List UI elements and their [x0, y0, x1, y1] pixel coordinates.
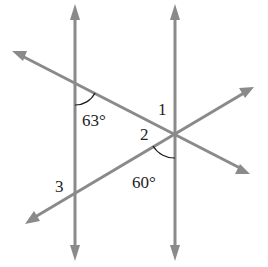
arrowhead-up-icon [170, 4, 180, 20]
transversal-ascending [25, 87, 254, 224]
angle-label-63: 63° [82, 111, 106, 130]
angle-label-60: 60° [132, 173, 156, 192]
vertical-line-left [70, 4, 80, 261]
arrowhead-down-icon [70, 245, 80, 261]
arrowhead-left-icon [12, 51, 27, 61]
angle-label-3: 3 [55, 177, 64, 196]
arrowhead-up-icon [70, 4, 80, 20]
transversal-descending [12, 51, 250, 174]
arrowhead-down-icon [170, 245, 180, 261]
angle-label-2: 2 [140, 125, 149, 144]
geometry-diagram: 63° 60° 1 2 3 [0, 0, 268, 267]
angle-arc-60 [153, 146, 175, 158]
angle-label-1: 1 [158, 100, 167, 119]
arrowhead-left-icon [25, 211, 40, 224]
angle-arc-63 [75, 93, 95, 105]
